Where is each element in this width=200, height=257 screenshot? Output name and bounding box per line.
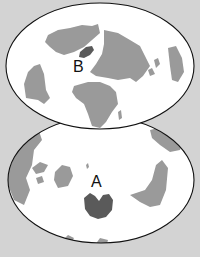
northern-hemisphere-map bbox=[6, 3, 194, 129]
label-b: B bbox=[73, 59, 84, 75]
map-figure: B A bbox=[0, 0, 200, 257]
label-a: A bbox=[91, 174, 102, 190]
map-canvas bbox=[0, 0, 200, 257]
